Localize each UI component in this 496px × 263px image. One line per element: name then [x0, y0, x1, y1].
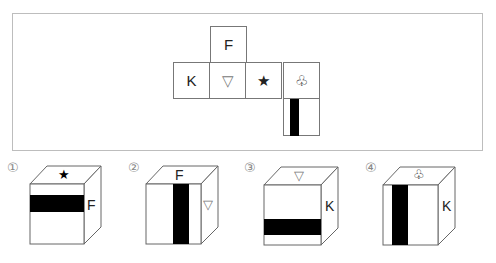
cube3-right-symbol: K: [325, 198, 334, 214]
cube3-top-symbol: ▽: [294, 168, 304, 183]
cube2-top-symbol: F: [175, 167, 184, 183]
cube4-right-symbol: K: [442, 198, 451, 214]
cube4-top-symbol: ♧: [413, 167, 425, 182]
cube2-right-symbol: ▽: [203, 197, 213, 212]
cube1-top-symbol: ★: [58, 167, 70, 182]
cube-options: [0, 0, 496, 263]
cube1-right-symbol: F: [87, 197, 96, 213]
